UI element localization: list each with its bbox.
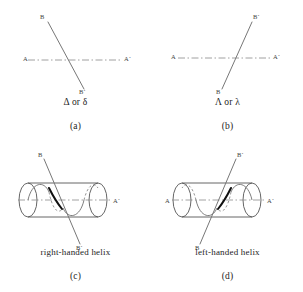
helix-bold-front-segment-c bbox=[49, 188, 62, 209]
chirality-figure: A A´ B B´ Δ or δ (a) A A´ B´ B Λ or λ (b… bbox=[0, 0, 303, 292]
label-line-top-c: B bbox=[38, 151, 42, 158]
label-axis-right-d: A´ bbox=[267, 197, 274, 204]
skew-line-b bbox=[222, 22, 252, 89]
label-axis-left-b: A bbox=[171, 53, 176, 60]
helix-front-arc-2-c bbox=[63, 200, 84, 216]
helix-front-arc-1-d bbox=[231, 184, 252, 200]
label-axis-right-b: A´ bbox=[273, 53, 280, 60]
caption-name-a: Δ or δ bbox=[0, 97, 151, 107]
label-line-bottom-a: B´ bbox=[79, 88, 86, 95]
caption-name-d: left-handed helix bbox=[152, 247, 303, 257]
label-axis-left-a: A bbox=[23, 55, 28, 62]
helix-back-arc-2-d bbox=[182, 185, 196, 200]
panel-c: A A´ B B´ right-handed helix (c) bbox=[0, 146, 151, 292]
caption-letter-b: (b) bbox=[152, 121, 303, 131]
label-line-bottom-b: B bbox=[216, 88, 220, 95]
helix-front-arc-1-c bbox=[28, 184, 49, 200]
label-line-top-b: B´ bbox=[253, 13, 260, 20]
caption-name-c: right-handed helix bbox=[0, 247, 151, 257]
panel-d: A A´ B´ B left-handed helix (d) bbox=[152, 146, 303, 292]
label-axis-right-c: A´ bbox=[113, 197, 120, 204]
helix-front-arc-2-d bbox=[196, 200, 217, 216]
caption-name-b: Λ or λ bbox=[152, 97, 303, 107]
label-axis-left-d: A bbox=[165, 197, 170, 204]
label-line-top-d: B´ bbox=[237, 151, 244, 158]
label-line-top-a: B bbox=[40, 13, 44, 20]
skew-line-c bbox=[44, 159, 80, 244]
caption-letter-c: (c) bbox=[0, 271, 151, 281]
skew-line-d bbox=[200, 159, 236, 244]
panel-a: A A´ B B´ Δ or δ (a) bbox=[0, 0, 151, 146]
label-axis-right-a: A´ bbox=[124, 55, 131, 62]
skew-line-a bbox=[48, 22, 84, 89]
helix-back-arc-2-c bbox=[84, 185, 98, 200]
helix-bold-front-segment-d bbox=[218, 188, 231, 209]
caption-letter-d: (d) bbox=[152, 271, 303, 281]
panel-b: A A´ B´ B Λ or λ (b) bbox=[152, 0, 303, 146]
caption-letter-a: (a) bbox=[0, 121, 151, 131]
